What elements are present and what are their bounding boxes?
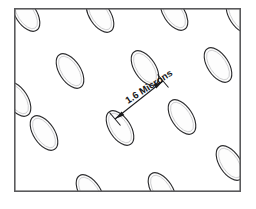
ellipse-feature [0, 77, 36, 121]
micrograph-schematic-diagram: 1.6 Microns [0, 0, 256, 209]
ellipse-feature [7, 0, 46, 36]
ellipse-feature [101, 106, 140, 150]
ellipse-feature [163, 95, 202, 139]
ellipse-feature [51, 49, 90, 93]
ellipse-feature [71, 170, 110, 209]
ellipse-feature [199, 43, 238, 87]
ellipse-feature [155, 0, 194, 35]
figure-container: 1.6 Microns [0, 0, 256, 209]
ellipse-feature [143, 168, 182, 209]
ellipse-feature [81, 0, 120, 37]
ellipse-feature [211, 141, 250, 185]
ellipse-feature [221, 0, 256, 38]
ellipse-feature [25, 111, 64, 155]
